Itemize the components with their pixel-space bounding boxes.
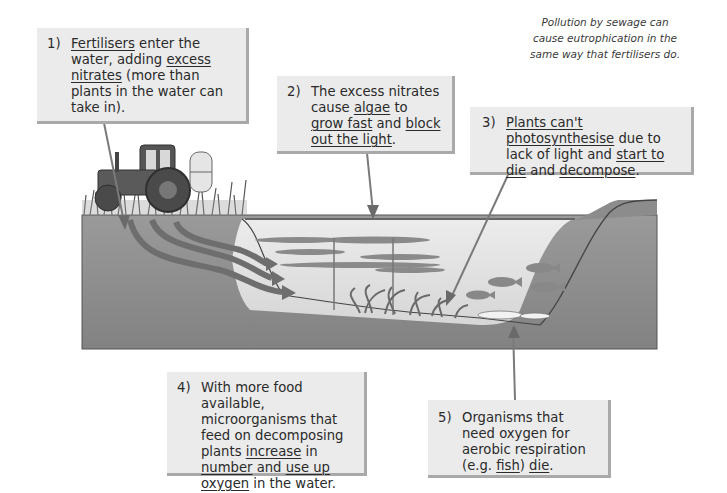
step-3-callout: 3) Plants can't photosynthesise due to l… (470, 107, 694, 175)
step-number: 1) (47, 36, 71, 116)
text-run: in (301, 444, 317, 459)
text-run: and (252, 460, 285, 475)
underlined-term: grow fast (311, 116, 372, 131)
note-line: cause eutrophication in the (520, 30, 690, 46)
text-run: ) (520, 458, 529, 473)
text-run: and (526, 163, 559, 178)
step-text: The excess nitrates cause algae to grow … (311, 84, 444, 148)
underlined-term: Fertilisers (71, 36, 135, 51)
text-run: . (635, 163, 639, 178)
step-number: 5) (438, 410, 462, 474)
step-4-callout: 4) With more food available, microorgani… (167, 372, 367, 476)
note-line: same way that fertilisers do. (520, 46, 690, 62)
underlined-term: number (201, 460, 252, 475)
text-run: to (390, 100, 407, 115)
underlined-term: decompose (559, 163, 635, 178)
step-1-callout: 1) Fertilisers enter the water, adding e… (37, 28, 249, 124)
step-number: 3) (482, 115, 506, 179)
underlined-term: Plants can't photosynthesise (506, 115, 614, 146)
step-text: Plants can't photosynthesise due to lack… (506, 115, 683, 179)
underlined-term: algae (354, 100, 390, 115)
step-text: With more food available, microorganisms… (201, 380, 356, 492)
step-number: 2) (287, 84, 311, 148)
text-run: . (549, 458, 553, 473)
underlined-term: fish (496, 458, 520, 473)
step-5-callout: 5) Organisms that need oxygen for aerobi… (428, 400, 611, 478)
note-line: Pollution by sewage can (520, 14, 690, 30)
text-run: . (392, 132, 396, 147)
text-run: and (372, 116, 405, 131)
underlined-term: die (529, 458, 549, 473)
step-text: Organisms that need oxygen for aerobic r… (462, 410, 600, 474)
step-text: Fertilisers enter the water, adding exce… (71, 36, 238, 116)
sewage-note: Pollution by sewage can cause eutrophica… (520, 14, 690, 62)
underlined-term: increase (246, 444, 302, 459)
step-2-callout: 2) The excess nitrates cause algae to gr… (277, 76, 455, 154)
step-number: 4) (177, 380, 201, 492)
text-run: in the water. (249, 476, 336, 491)
